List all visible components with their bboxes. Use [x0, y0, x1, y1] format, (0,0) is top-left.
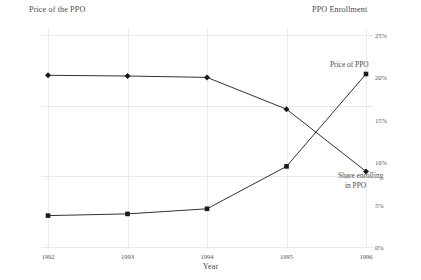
- right-tick-label: 15%: [375, 117, 415, 124]
- data-point-square: [125, 212, 130, 217]
- data-point-diamond: [125, 73, 131, 79]
- plot-area: $0$1,000$2,000$3,000 0%5%10%15%20%25% 19…: [48, 35, 367, 247]
- dual-axis-line-chart: Price of the PPO PPO Enrollment $0$1,000…: [0, 0, 421, 280]
- right-tick-label: 10%: [375, 159, 415, 166]
- x-tick-label: 1994: [184, 253, 230, 260]
- data-point-square: [205, 207, 210, 212]
- series-line: [48, 74, 366, 216]
- share-label-line-1: Share enrolling: [338, 171, 383, 180]
- right-tick-label: 5%: [375, 202, 415, 209]
- data-point-diamond: [204, 74, 210, 80]
- right-tick-label: 0%: [375, 244, 415, 251]
- data-point-diamond: [45, 72, 51, 78]
- x-tick-label: 1995: [264, 253, 310, 260]
- x-tick-label: 1996: [343, 253, 389, 260]
- x-axis-title: Year: [0, 262, 421, 271]
- series-line: [48, 75, 366, 171]
- right-axis-title: PPO Enrollment: [312, 5, 367, 14]
- right-tick-label: 25%: [375, 32, 415, 39]
- price-series-inline-label: Price of PPO: [330, 60, 369, 70]
- data-point-square: [364, 72, 369, 77]
- data-point-square: [284, 164, 289, 169]
- data-point-square: [46, 213, 51, 218]
- left-axis-title: Price of the PPO: [29, 5, 85, 14]
- right-tick-label: 20%: [375, 74, 415, 81]
- share-label-line-2: in PPO: [345, 181, 383, 191]
- share-series-inline-label: Share enrolling in PPO: [338, 171, 383, 191]
- x-tick-label: 1993: [105, 253, 151, 260]
- series-layer: [48, 35, 367, 247]
- x-tick-label: 1992: [25, 253, 71, 260]
